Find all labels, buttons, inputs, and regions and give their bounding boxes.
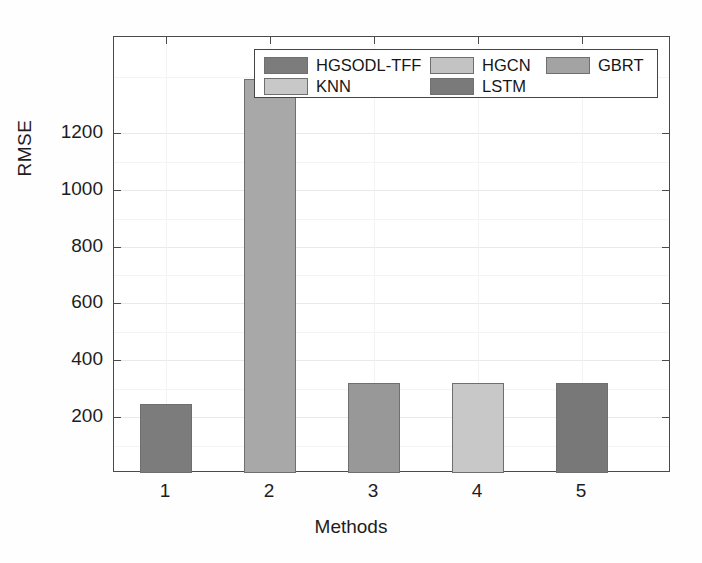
gridline-minor: [114, 275, 669, 276]
y-tick-800: [114, 247, 121, 248]
bar-5[interactable]: [556, 383, 608, 473]
x-tick-label-4: 4: [472, 480, 483, 502]
legend-label-knn: KNN: [316, 78, 351, 95]
legend-swatch-hgsodl-tff: [264, 57, 308, 74]
y-tick-1200: [114, 133, 121, 134]
y-tick-label-400: 400: [71, 348, 103, 370]
gridline-minor: [114, 162, 669, 163]
x-tick-top-1: [166, 37, 167, 44]
figure-canvas: RMSE 1200 1000 800 600 400 200: [0, 0, 702, 563]
x-tick-label-2: 2: [264, 480, 275, 502]
y-tick-right-200: [662, 417, 669, 418]
y-tick-label-1000: 1000: [61, 178, 103, 200]
legend-label-lstm: LSTM: [482, 78, 526, 95]
legend-swatch-lstm: [430, 78, 474, 95]
x-tick-label-3: 3: [368, 480, 379, 502]
bar-3[interactable]: [348, 383, 400, 473]
legend-swatch-hgcn: [430, 57, 474, 74]
legend-label-hgsodl-tff: HGSODL-TFF: [316, 57, 421, 74]
x-tick-top-3: [374, 37, 375, 44]
y-tick-label-600: 600: [71, 291, 103, 313]
legend-swatch-knn: [264, 78, 308, 95]
legend-item-gbrt[interactable]: GBRT: [546, 55, 644, 75]
y-tick-600: [114, 303, 121, 304]
y-tick-right-400: [662, 360, 669, 361]
gridline-1000: [114, 190, 669, 191]
y-tick-label-800: 800: [71, 235, 103, 257]
gridline-minor: [114, 332, 669, 333]
y-tick-1000: [114, 190, 121, 191]
x-tick-top-2: [270, 37, 271, 44]
legend-item-lstm[interactable]: LSTM: [430, 76, 526, 96]
legend-item-hgcn[interactable]: HGCN: [430, 55, 531, 75]
x-tick-top-5: [582, 37, 583, 44]
bar-2[interactable]: [244, 79, 296, 473]
y-tick-right-800: [662, 247, 669, 248]
gridline-600: [114, 303, 669, 304]
y-tick-right-600: [662, 303, 669, 304]
legend-item-hgsodl-tff[interactable]: HGSODL-TFF: [264, 55, 421, 75]
x-tick-label-5: 5: [576, 480, 587, 502]
legend-label-hgcn: HGCN: [482, 57, 531, 74]
x-axis-title: Methods: [0, 516, 702, 538]
x-tick-label-1: 1: [160, 480, 171, 502]
y-tick-label-200: 200: [71, 405, 103, 427]
legend: HGSODL-TFF HGCN GBRT KNN LSTM: [254, 49, 658, 98]
legend-label-gbrt: GBRT: [598, 57, 644, 74]
legend-swatch-gbrt: [546, 57, 590, 74]
y-tick-right-1200: [662, 133, 669, 134]
bar-1[interactable]: [140, 404, 192, 473]
y-tick-right-1000: [662, 190, 669, 191]
legend-item-knn[interactable]: KNN: [264, 76, 351, 96]
gridline-800: [114, 247, 669, 248]
x-tick-top-4: [478, 37, 479, 44]
y-tick-label-1200: 1200: [61, 121, 103, 143]
y-tick-400: [114, 360, 121, 361]
gridline-1200: [114, 133, 669, 134]
plot-area: HGSODL-TFF HGCN GBRT KNN LSTM: [113, 36, 670, 472]
x-axis-tick-labels: 1 2 3 4 5: [0, 480, 702, 506]
gridline-400: [114, 360, 669, 361]
bar-4[interactable]: [452, 383, 504, 473]
y-axis-tick-labels: 1200 1000 800 600 400 200: [0, 0, 113, 563]
gridline-minor: [114, 219, 669, 220]
y-tick-200: [114, 417, 121, 418]
